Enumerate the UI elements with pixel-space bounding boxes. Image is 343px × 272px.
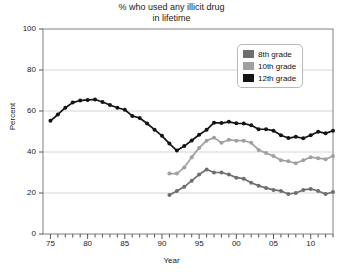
x-tick-label: 95 bbox=[187, 239, 211, 248]
data-point bbox=[182, 165, 186, 169]
data-point bbox=[234, 176, 238, 180]
data-point bbox=[234, 121, 238, 125]
data-point bbox=[316, 189, 320, 193]
data-point bbox=[123, 108, 127, 112]
data-point bbox=[167, 142, 171, 146]
data-point bbox=[301, 188, 305, 192]
data-point bbox=[145, 122, 149, 126]
data-point bbox=[205, 139, 209, 143]
y-tick-label: 100 bbox=[2, 24, 36, 33]
data-point bbox=[242, 122, 246, 126]
data-point bbox=[324, 192, 328, 196]
data-point bbox=[257, 127, 261, 131]
data-point bbox=[212, 171, 216, 175]
legend-label: 8th grade bbox=[258, 50, 292, 59]
plot-area bbox=[0, 0, 343, 272]
data-point bbox=[331, 190, 335, 194]
data-point bbox=[227, 138, 231, 142]
series-line bbox=[50, 100, 333, 151]
data-point bbox=[272, 154, 276, 158]
data-point bbox=[182, 144, 186, 148]
data-point bbox=[115, 106, 119, 110]
data-point bbox=[309, 133, 313, 137]
data-point bbox=[249, 141, 253, 145]
data-point bbox=[175, 149, 179, 153]
data-point bbox=[56, 112, 60, 116]
data-point bbox=[227, 120, 231, 124]
legend-item: 10th grade bbox=[243, 60, 296, 72]
y-tick-label: 40 bbox=[2, 147, 36, 156]
data-point bbox=[197, 146, 201, 150]
data-point bbox=[242, 139, 246, 143]
data-point bbox=[190, 179, 194, 183]
data-point bbox=[279, 158, 283, 162]
data-point bbox=[219, 141, 223, 145]
data-point bbox=[309, 155, 313, 159]
data-point bbox=[160, 134, 164, 138]
data-point bbox=[331, 129, 335, 133]
y-tick-label: 20 bbox=[2, 188, 36, 197]
y-tick-label: 80 bbox=[2, 65, 36, 74]
legend-label: 12th grade bbox=[258, 74, 296, 83]
legend-label: 10th grade bbox=[258, 62, 296, 71]
legend-item: 12th grade bbox=[243, 72, 296, 84]
y-tick-label: 60 bbox=[2, 106, 36, 115]
data-point bbox=[100, 100, 104, 104]
data-point bbox=[138, 116, 142, 120]
x-tick-label: 90 bbox=[150, 239, 174, 248]
data-point bbox=[227, 173, 231, 177]
data-point bbox=[182, 185, 186, 189]
data-point bbox=[257, 184, 261, 188]
legend-item: 8th grade bbox=[243, 48, 296, 60]
data-point bbox=[286, 192, 290, 196]
data-point bbox=[249, 123, 253, 127]
data-point bbox=[93, 98, 97, 102]
data-point bbox=[301, 158, 305, 162]
data-point bbox=[324, 157, 328, 161]
data-point bbox=[272, 129, 276, 133]
x-tick-label: 10 bbox=[299, 239, 323, 248]
data-point bbox=[242, 177, 246, 181]
data-point bbox=[294, 191, 298, 195]
x-tick-label: 00 bbox=[224, 239, 248, 248]
data-point bbox=[167, 193, 171, 197]
data-point bbox=[205, 167, 209, 171]
x-tick-label: 85 bbox=[113, 239, 137, 248]
data-point bbox=[190, 139, 194, 143]
data-point bbox=[197, 173, 201, 177]
data-point bbox=[286, 136, 290, 140]
series-12th-grade bbox=[48, 98, 335, 153]
data-point bbox=[130, 114, 134, 118]
data-point bbox=[316, 156, 320, 160]
data-point bbox=[212, 121, 216, 125]
x-tick-label: 80 bbox=[76, 239, 100, 248]
data-point bbox=[272, 188, 276, 192]
data-point bbox=[48, 119, 52, 123]
data-point bbox=[279, 133, 283, 137]
legend-swatch-icon bbox=[243, 62, 254, 70]
data-point bbox=[219, 171, 223, 175]
chart-container: % who used any illicit drug in lifetime … bbox=[0, 0, 343, 272]
data-point bbox=[279, 189, 283, 193]
x-tick-label: 75 bbox=[38, 239, 62, 248]
data-point bbox=[294, 135, 298, 139]
data-point bbox=[249, 181, 253, 185]
data-point bbox=[71, 101, 75, 105]
legend-swatch-icon bbox=[243, 74, 254, 82]
data-point bbox=[175, 189, 179, 193]
data-point bbox=[63, 106, 67, 110]
data-point bbox=[175, 172, 179, 176]
y-tick-label: 0 bbox=[2, 229, 36, 238]
data-point bbox=[86, 98, 90, 102]
x-tick-label: 05 bbox=[262, 239, 286, 248]
data-point bbox=[264, 186, 268, 190]
data-point bbox=[190, 155, 194, 159]
data-point bbox=[78, 99, 82, 103]
data-point bbox=[331, 154, 335, 158]
data-point bbox=[264, 151, 268, 155]
data-point bbox=[264, 127, 268, 131]
data-point bbox=[108, 103, 112, 107]
data-point bbox=[212, 136, 216, 140]
data-point bbox=[286, 159, 290, 163]
data-point bbox=[301, 136, 305, 140]
